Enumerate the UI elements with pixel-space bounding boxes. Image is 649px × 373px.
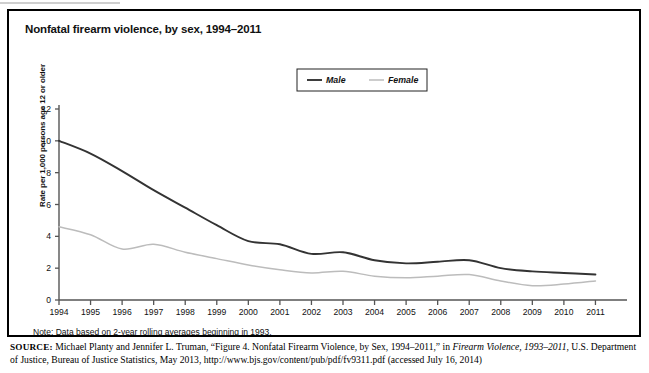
x-tick-label: 1997 <box>144 307 163 317</box>
x-tick-label: 2004 <box>365 307 384 317</box>
x-tick-label: 2009 <box>523 307 542 317</box>
x-tick-label: 1998 <box>176 307 195 317</box>
chart-note: Note: Data based on 2-year rolling avera… <box>33 327 272 337</box>
source-text-1: Michael Planty and Jennifer L. Truman, “… <box>53 341 453 352</box>
series-line-female <box>59 227 595 286</box>
source-label: SOURCE: <box>10 342 53 352</box>
x-tick-label: 2002 <box>302 307 321 317</box>
page-top-margin <box>0 0 649 7</box>
x-tick-label: 2006 <box>428 307 447 317</box>
y-tick-label: 0 <box>46 295 51 305</box>
plot-area-wrapper: Rate per 1,000 persons age 12 or older M… <box>9 11 639 335</box>
x-tick-label: 2008 <box>491 307 510 317</box>
x-axis: 1994199519961997199819992000200120022003… <box>49 300 627 317</box>
y-tick-label: 4 <box>46 231 51 241</box>
series-line-male <box>59 141 595 275</box>
decorative-rule <box>0 2 120 4</box>
x-tick-label: 1999 <box>207 307 226 317</box>
y-tick-label: 8 <box>46 168 51 178</box>
data-series-group <box>59 141 595 286</box>
x-tick-label: 1994 <box>49 307 68 317</box>
figure-page: Nonfatal firearm violence, by sex, 1994–… <box>0 0 649 373</box>
y-tick-label: 6 <box>46 200 51 210</box>
x-tick-label: 2003 <box>333 307 352 317</box>
x-tick-label: 2007 <box>460 307 479 317</box>
x-tick-label: 2005 <box>397 307 416 317</box>
x-tick-label: 2000 <box>239 307 258 317</box>
legend-label-male: Male <box>326 75 346 85</box>
x-tick-label: 1996 <box>113 307 132 317</box>
source-publication-title: Firearm Violence, 1993–2011 <box>452 341 566 352</box>
y-tick-label: 2 <box>46 263 51 273</box>
x-tick-label: 2001 <box>270 307 289 317</box>
y-axis-label: Rate per 1,000 persons age 12 or older <box>38 41 47 231</box>
source-citation: SOURCE: Michael Planty and Jennifer L. T… <box>10 341 644 366</box>
x-tick-label: 1995 <box>81 307 100 317</box>
figure-border-box: Nonfatal firearm violence, by sex, 1994–… <box>7 9 641 337</box>
x-tick-label: 2011 <box>586 307 605 317</box>
chart-legend: MaleFemale <box>297 69 427 91</box>
x-tick-label: 2010 <box>554 307 573 317</box>
legend-label-female: Female <box>388 75 418 85</box>
line-chart-svg: MaleFemale 024681012 1994199519961997199… <box>9 11 639 321</box>
